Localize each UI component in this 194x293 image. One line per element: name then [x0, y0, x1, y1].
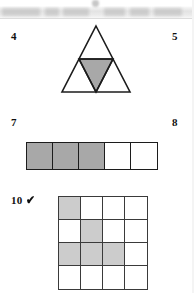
scan-page-edge — [192, 0, 194, 293]
question-number-label: 10 — [11, 194, 22, 206]
question-number-10: 10✔ — [11, 194, 36, 206]
strip-cell-1 — [27, 143, 53, 169]
grid-cell-r1-c4 — [125, 197, 147, 220]
grid-cell-r1-c2 — [81, 197, 103, 220]
grid-cell-r2-c4 — [125, 220, 147, 243]
question-number-8: 8 — [172, 116, 178, 128]
worksheet-page: 4 5 7 8 10✔ — [0, 0, 194, 293]
header-smudge — [104, 8, 125, 16]
grid-cell-r3-c1 — [59, 243, 81, 266]
question-number-5: 5 — [172, 30, 178, 42]
question-number-label: 5 — [172, 30, 178, 42]
strip-figure — [26, 142, 158, 170]
triangle-figure — [58, 22, 134, 98]
strip-cell-2 — [53, 143, 79, 169]
grid-cell-r3-c4 — [125, 243, 147, 266]
question-number-7: 7 — [11, 116, 17, 128]
strip-cell-4 — [105, 143, 131, 169]
question-number-label: 7 — [11, 116, 17, 128]
header-smudge — [63, 8, 89, 16]
grid-cell-r2-c3 — [103, 220, 125, 243]
header-divider — [0, 18, 194, 19]
grid-cell-r2-c1 — [59, 220, 81, 243]
grid-cell-r1-c1 — [59, 197, 81, 220]
header-artifact-glyph — [92, 0, 99, 7]
check-mark-icon: ✔ — [26, 194, 35, 206]
strip-cell-3 — [79, 143, 105, 169]
grid-cell-r3-c2 — [81, 243, 103, 266]
question-number-label: 8 — [172, 116, 178, 128]
grid-cell-r4-c2 — [81, 266, 103, 289]
grid-cell-r2-c2 — [81, 220, 103, 243]
header-smudge — [154, 8, 182, 16]
grid-cell-r3-c3 — [103, 243, 125, 266]
question-number-4: 4 — [11, 30, 17, 42]
grid-cell-r4-c3 — [103, 266, 125, 289]
header-smudge — [45, 8, 59, 16]
question-number-label: 4 — [11, 30, 17, 42]
grid-figure — [58, 196, 148, 290]
grid-cell-r4-c1 — [59, 266, 81, 289]
strip-cell-5 — [131, 143, 157, 169]
grid-cell-r4-c4 — [125, 266, 147, 289]
grid-cell-r1-c3 — [103, 197, 125, 220]
header-smudge — [130, 8, 149, 16]
header-smudge — [2, 8, 40, 16]
